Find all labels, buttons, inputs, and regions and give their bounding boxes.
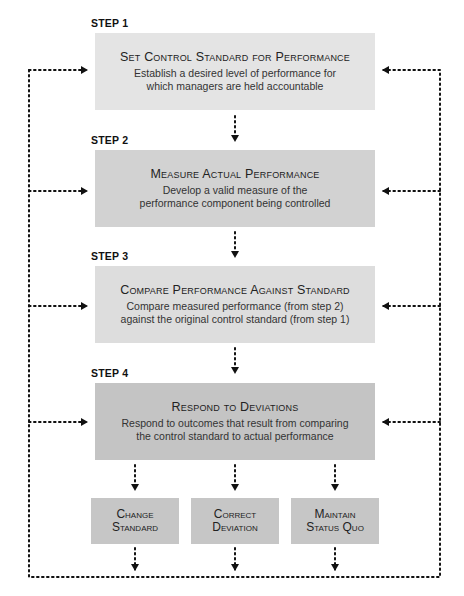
step-4-title: Respond to Deviations [95, 400, 375, 414]
step-1-box: Set Control Standard for Performance Est… [95, 33, 375, 110]
step-2-title: Measure Actual Performance [95, 167, 375, 181]
step-4-label: STEP 4 [91, 367, 128, 379]
response-3-line1: Maintain [315, 507, 356, 521]
response-change-standard: ChangeStandard [91, 498, 179, 544]
step-2-box: Measure Actual Performance Develop a val… [95, 150, 375, 227]
step-2-description: Develop a valid measure of the performan… [95, 184, 375, 210]
step-3-title: Compare Performance Against Standard [95, 283, 375, 297]
response-correct-deviation: CorrectDeviation [191, 498, 279, 544]
step-4-description: Respond to outcomes that result from com… [95, 417, 375, 443]
response-3-line2: Status Quo [306, 520, 364, 534]
step-3-box: Compare Performance Against Standard Com… [95, 266, 375, 343]
step-2-label: STEP 2 [91, 134, 128, 146]
step-4-box: Respond to Deviations Respond to outcome… [95, 383, 375, 460]
step-1-description: Establish a desired level of performance… [95, 67, 375, 93]
response-1-line1: Change [116, 507, 153, 521]
step-3-description: Compare measured performance (from step … [95, 300, 375, 326]
response-2-line1: Correct [214, 507, 256, 521]
step-3-label: STEP 3 [91, 250, 128, 262]
response-1-line2: Standard [112, 520, 158, 534]
response-maintain-status-quo: MaintainStatus Quo [291, 498, 379, 544]
step-1-title: Set Control Standard for Performance [95, 50, 375, 64]
response-2-line2: Deviation [212, 520, 257, 534]
step-1-label: STEP 1 [91, 17, 128, 29]
